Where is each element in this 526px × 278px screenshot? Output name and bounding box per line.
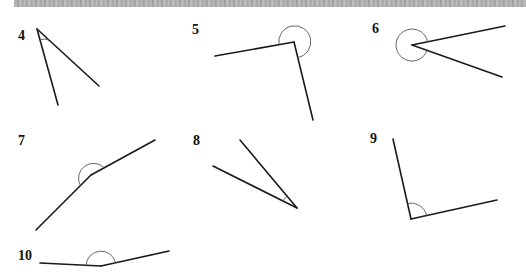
angle-4-ray-2: [37, 29, 99, 86]
angle-9: [393, 139, 497, 219]
angle-8-ray-2: [240, 140, 297, 208]
angle-7: [36, 140, 155, 230]
angle-6-ray-1: [412, 26, 505, 45]
angle-worksheet: 4 5 6 7 8 9 10: [0, 0, 526, 278]
angle-5-arc-icon: [279, 26, 311, 58]
angle-4-ray-1: [37, 29, 58, 105]
angle-5-ray-2: [294, 42, 313, 120]
angles-canvas: [0, 0, 526, 278]
angle-7-ray-2: [91, 140, 155, 175]
angle-9-ray-1: [393, 139, 411, 219]
angle-4-arc-icon: [40, 39, 49, 40]
angle-8-ray-1: [213, 166, 297, 208]
angle-4: [37, 29, 99, 105]
angle-10-ray-2: [101, 251, 169, 266]
angle-8: [213, 140, 297, 208]
angle-6-ray-2: [412, 45, 502, 77]
angle-5: [215, 26, 313, 120]
angle-10: [40, 251, 169, 266]
angle-8-arc-icon: [283, 196, 287, 201]
angle-5-ray-1: [215, 42, 294, 56]
angle-10-ray-1: [40, 263, 101, 266]
angle-6: [396, 26, 505, 77]
angle-7-ray-1: [36, 175, 91, 230]
